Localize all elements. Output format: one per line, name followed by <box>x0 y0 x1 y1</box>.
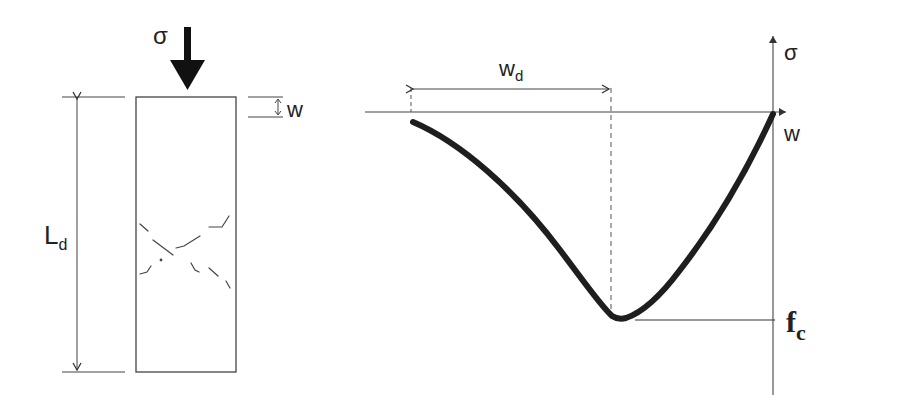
w-axis-label: w <box>783 121 800 146</box>
load-label: σ <box>153 22 168 49</box>
displacement-label: w <box>286 97 303 122</box>
length-label-sub: d <box>58 236 67 253</box>
wd-label: wd <box>498 56 523 84</box>
crack-pattern <box>140 216 230 288</box>
wd-label-sub: d <box>515 67 523 84</box>
stress-displacement-curve <box>413 114 773 319</box>
length-label-main: L <box>44 220 58 250</box>
load-arrow-head-icon <box>170 60 205 90</box>
specimen-group: σ Ld w <box>44 22 303 372</box>
load-arrow-shaft <box>184 27 191 63</box>
wd-label-main: w <box>498 56 515 81</box>
chart-group: σ w wd fc <box>365 36 806 395</box>
fc-label: fc <box>786 305 806 345</box>
diagram-canvas: σ Ld w σ w wd fc <box>0 0 897 412</box>
fc-label-sub: c <box>796 320 806 345</box>
length-label: Ld <box>44 220 67 253</box>
sigma-axis-label: σ <box>784 40 798 65</box>
specimen-box <box>136 97 236 372</box>
